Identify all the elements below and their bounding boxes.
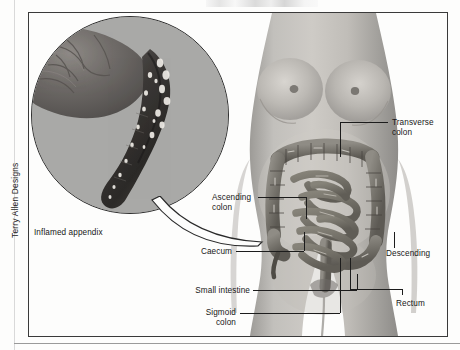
label-sigmoid-colon: Sigmoid colon — [168, 308, 236, 328]
leader-sigmoid-colon-v — [340, 258, 341, 313]
cropped-text-fragment — [206, 0, 318, 7]
label-rectum: Rectum — [396, 299, 425, 309]
leader-sigmoid-colon-h — [240, 313, 340, 314]
label-small-intestine: Small intestine — [186, 286, 250, 296]
illustration-page: Transverse colon Ascending colon Caecum … — [0, 0, 460, 350]
artist-credit: Terry Allen Designs — [10, 163, 20, 238]
leader-caecum-v — [304, 232, 305, 251]
label-inflamed-appendix: Inflamed appendix — [34, 228, 103, 238]
outer-bottom-rule — [14, 343, 460, 344]
leader-ascending-colon-v — [306, 197, 307, 219]
label-ascending-colon: Ascending colon — [212, 193, 251, 213]
nipple-left — [290, 85, 299, 93]
frame-right-rule — [447, 12, 448, 337]
appendix-closeup-art — [32, 17, 228, 213]
leader-rectum-tick — [402, 289, 403, 295]
leader-caecum-h — [236, 251, 304, 252]
frame-bottom-rule — [28, 336, 448, 337]
frame-left-rule — [28, 12, 29, 337]
leader-descending-v — [394, 232, 395, 248]
leader-rectum-h — [350, 289, 402, 290]
label-descending: Descending — [386, 249, 430, 259]
leader-ascending-colon-h — [258, 197, 306, 198]
nipple-right — [351, 87, 359, 95]
leader-transverse-colon-h — [340, 122, 388, 123]
leader-transverse-colon-v — [340, 122, 341, 157]
magnified-appendix-circle — [31, 16, 229, 214]
leader-small-intestine-v — [357, 274, 358, 290]
descending-colon-path — [372, 157, 378, 241]
label-transverse-colon: Transverse colon — [392, 118, 434, 138]
leader-small-intestine-h — [253, 290, 357, 291]
label-caecum: Caecum — [172, 247, 232, 257]
leader-rectum-v — [350, 258, 351, 289]
